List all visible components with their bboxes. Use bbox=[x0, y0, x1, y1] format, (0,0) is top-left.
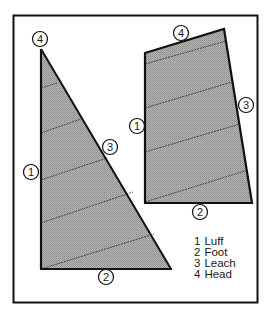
svg-text:4: 4 bbox=[178, 27, 184, 39]
svg-text:3: 3 bbox=[243, 99, 249, 111]
marker-luff: 1 bbox=[24, 165, 39, 180]
svg-text:4: 4 bbox=[37, 33, 43, 45]
marker-foot: 2 bbox=[99, 270, 114, 285]
marker-leach: 3 bbox=[103, 140, 118, 155]
svg-text:2: 2 bbox=[197, 206, 203, 218]
legend-item-head: 4Head bbox=[194, 268, 232, 280]
sail-parts-diagram: 4 1 3 2 4 1 bbox=[0, 0, 271, 314]
marker-head: 4 bbox=[33, 32, 48, 47]
svg-text:3: 3 bbox=[107, 141, 113, 153]
svg-text:1: 1 bbox=[28, 166, 34, 178]
svg-text:2: 2 bbox=[103, 271, 109, 283]
marker-leach: 3 bbox=[239, 98, 254, 113]
marker-head: 4 bbox=[174, 26, 189, 41]
marker-luff: 1 bbox=[130, 119, 145, 134]
marker-foot: 2 bbox=[193, 205, 208, 220]
svg-text:1: 1 bbox=[134, 120, 140, 132]
